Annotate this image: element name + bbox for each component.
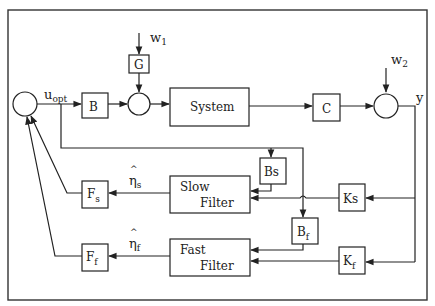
Fs-to-controller-sum-line xyxy=(31,116,82,193)
block-Ks-label: Ks xyxy=(343,192,358,206)
block-Bs-label: Bs xyxy=(264,165,279,179)
output-sum-junction xyxy=(374,94,398,118)
w1-label: w1 xyxy=(150,30,167,47)
fast-filter-line1: Fast xyxy=(180,243,206,257)
block-C-label: C xyxy=(322,102,331,116)
block-system-label: System xyxy=(190,100,235,114)
Bs-to-slow-filter-line xyxy=(251,184,271,191)
eta-s-hat: ^ xyxy=(130,164,138,174)
fast-filter-line2: Filter xyxy=(200,259,234,273)
block-B-label: B xyxy=(89,100,98,114)
w2-label: w2 xyxy=(391,52,408,69)
Bf-to-fast-filter-line xyxy=(251,244,303,250)
block-diagram: uopt B w1 G System C w2 y Ks Kf Bs xyxy=(0,0,435,306)
uopt-label: uopt xyxy=(44,87,68,104)
slow-filter-line2: Filter xyxy=(200,196,234,210)
eta-s-label: ηs xyxy=(129,173,142,190)
block-G-label: G xyxy=(134,58,144,72)
eta-f-hat: ^ xyxy=(130,227,138,237)
controller-sum-junction xyxy=(13,92,37,116)
eta-f-label: ηf xyxy=(129,236,141,253)
Ks-to-slow-filter-line xyxy=(251,196,339,198)
Ff-to-controller-sum-line xyxy=(27,117,82,256)
y-output-line xyxy=(398,106,415,262)
slow-filter-line1: Slow xyxy=(180,180,210,194)
y-label: y xyxy=(415,90,424,105)
input-sum-junction xyxy=(128,93,150,115)
